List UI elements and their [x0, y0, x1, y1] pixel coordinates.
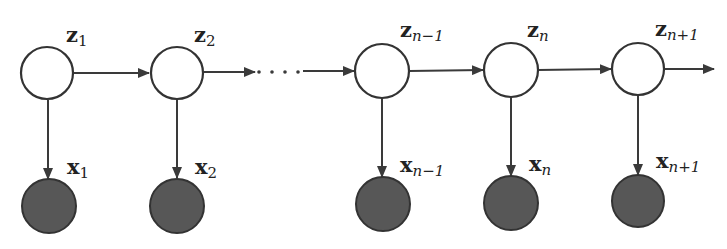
observed-node-xn	[484, 176, 538, 230]
edge-zn-zn+1	[538, 69, 611, 70]
edge-zn-1-zn	[409, 70, 483, 71]
latent-node-zn+1	[612, 43, 664, 95]
label-zn: zn	[527, 17, 549, 45]
observed-node-x2	[150, 179, 204, 233]
observed-node-x1	[22, 179, 76, 233]
ellipsis-dots	[257, 70, 300, 74]
label-z1: z1	[66, 22, 87, 50]
label-zn+1: zn+1	[655, 16, 699, 44]
hmm-diagram: z1 z2 zn−1 zn zn+1 x1 x2 xn−1 xn xn+1	[0, 0, 727, 249]
latent-node-zn-1	[355, 44, 409, 98]
latent-node-zn	[484, 43, 538, 97]
label-xn: xn	[529, 151, 551, 179]
label-z2: z2	[194, 22, 215, 50]
label-x2: x2	[195, 154, 217, 182]
label-xn-1: xn−1	[400, 152, 444, 180]
observed-node-xn-1	[356, 177, 410, 231]
observed-node-xn+1	[612, 175, 664, 227]
label-xn+1: xn+1	[656, 148, 700, 176]
latent-node-z2	[151, 47, 203, 99]
latent-node-z1	[21, 47, 73, 99]
label-x1: x1	[67, 154, 89, 182]
label-zn-1: zn−1	[400, 17, 444, 45]
